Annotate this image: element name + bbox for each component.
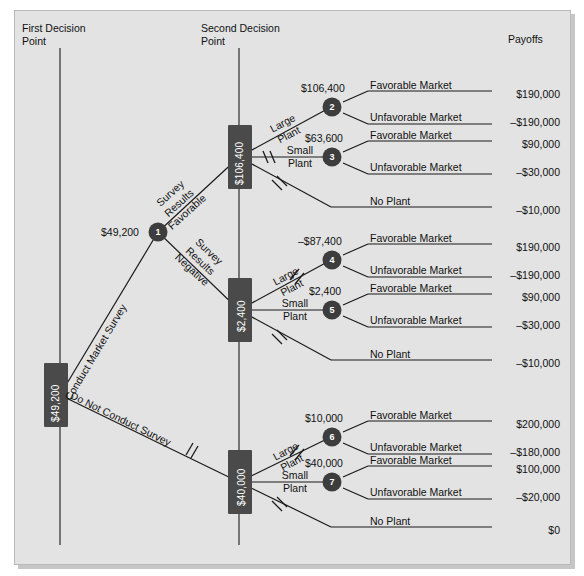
edge-n2-unfavorable — [343, 113, 368, 124]
payoffs-header: Payoffs — [508, 33, 543, 46]
outcome-label-fav-n3-unfavorable: Unfavorable Market — [370, 161, 462, 174]
prune-mark-nosurvey-noplant-b — [277, 497, 287, 507]
emv-node-6: $10,000 — [305, 412, 343, 425]
edge-n5-unfavorable — [343, 316, 368, 327]
outcome-label-fav-n2-unfavorable: Unfavorable Market — [370, 111, 462, 124]
chance-node-5-label: 5 — [323, 301, 341, 319]
prune-mark-do-not-conduct-a — [186, 443, 193, 455]
chance-node-2-label: 2 — [323, 98, 341, 116]
payoff-value-5: –$10,000 — [460, 204, 560, 216]
fav-small-plant-line1: Small — [280, 144, 320, 157]
emv-node-2: $106,400 — [301, 82, 345, 95]
payoff-value-9: –$30,000 — [460, 319, 560, 331]
outcome-label-neg-n5-favorable: Favorable Market — [370, 282, 452, 295]
prune-mark-do-not-conduct-b — [191, 446, 198, 458]
edge-n3-favorable — [343, 141, 368, 152]
emv-node-1: $49,200 — [101, 226, 139, 239]
payoff-value-15: $0 — [460, 524, 560, 536]
decision-box-survey-favorable-value: $106,400 — [234, 142, 245, 185]
payoff-value-3: $90,000 — [460, 138, 560, 150]
first-decision-point-line1: First Decision — [22, 22, 86, 35]
chance-node-6-label: 6 — [323, 428, 341, 446]
nosurvey-small-plant-line1: Small — [275, 469, 315, 482]
outcome-label-fav-n2-favorable: Favorable Market — [370, 79, 452, 92]
branch-label-nosurvey-small-plant: Small Plant — [275, 469, 315, 494]
second-decision-point-line1: Second Decision — [201, 22, 280, 35]
emv-node-3: $63,600 — [305, 132, 343, 145]
outcome-label-nosurvey-n7-unfavorable: Unfavorable Market — [370, 486, 462, 499]
fav-small-plant-line2: Plant — [280, 157, 320, 170]
neg-small-plant-line2: Plant — [275, 310, 315, 323]
prune-mark-fav-noplant-b — [277, 176, 287, 186]
outcome-label-fav-n3-favorable: Favorable Market — [370, 129, 452, 142]
payoff-value-12: –$180,000 — [460, 446, 560, 458]
first-decision-point-line2: Point — [22, 35, 86, 48]
payoff-value-6: $190,000 — [460, 241, 560, 253]
second-decision-point-line2: Point — [201, 35, 280, 48]
edge-n4-unfavorable — [343, 266, 368, 277]
edge-n4-favorable — [343, 244, 368, 255]
edge-n3-unfavorable — [343, 163, 368, 174]
edge-n6-unfavorable — [343, 443, 368, 454]
outcome-label-nosurvey-no-plant: No Plant — [370, 515, 410, 528]
decision-box-no-survey-value: $40,000 — [236, 468, 247, 506]
edge-conduct-survey — [60, 232, 158, 395]
outcome-label-nosurvey-n6-favorable: Favorable Market — [370, 409, 452, 422]
edge-n7-favorable — [343, 466, 368, 477]
edge-n6-favorable — [343, 421, 368, 432]
payoff-value-11: $200,000 — [460, 418, 560, 430]
nosurvey-small-plant-line2: Plant — [275, 482, 315, 495]
chance-node-7-label: 7 — [323, 473, 341, 491]
payoff-value-14: –$20,000 — [460, 491, 560, 503]
outcome-label-nosurvey-n6-unfavorable: Unfavorable Market — [370, 441, 462, 454]
branch-label-neg-small-plant: Small Plant — [275, 297, 315, 322]
emv-node-4: –$87,400 — [298, 235, 342, 248]
payoff-value-4: –$30,000 — [460, 166, 560, 178]
prune-mark-neg-noplant-a — [272, 334, 282, 344]
decision-tree-figure: First Decision Point Second Decision Poi… — [0, 0, 584, 576]
edge-n7-unfavorable — [343, 488, 368, 499]
emv-node-5: $2,400 — [309, 285, 341, 298]
payoff-value-7: –$190,000 — [460, 269, 560, 281]
payoff-value-13: $100,000 — [460, 463, 560, 475]
edge-n2-favorable — [343, 91, 368, 102]
first-decision-point-header: First Decision Point — [22, 22, 86, 48]
edge-n5-favorable — [343, 294, 368, 305]
chance-node-3-label: 3 — [323, 148, 341, 166]
outcome-label-fav-no-plant: No Plant — [370, 195, 410, 208]
payoff-value-1: $190,000 — [460, 88, 560, 100]
second-decision-point-header: Second Decision Point — [201, 22, 280, 48]
neg-small-plant-line1: Small — [275, 297, 315, 310]
payoff-value-8: $90,000 — [460, 291, 560, 303]
outcome-label-nosurvey-n7-favorable: Favorable Market — [370, 454, 452, 467]
outcome-label-neg-n4-favorable: Favorable Market — [370, 232, 452, 245]
decision-box-survey-negative-value: $2,400 — [236, 300, 247, 332]
branch-label-fav-small-plant: Small Plant — [280, 144, 320, 169]
outcome-label-neg-n4-unfavorable: Unfavorable Market — [370, 264, 462, 277]
decision-box-root-value: $49,200 — [50, 384, 61, 422]
prune-mark-fav-noplant-a — [272, 180, 282, 190]
payoff-value-10: –$10,000 — [460, 357, 560, 369]
outcome-label-neg-no-plant: No Plant — [370, 348, 410, 361]
payoff-value-2: –$190,000 — [460, 116, 560, 128]
outcome-label-neg-n5-unfavorable: Unfavorable Market — [370, 314, 462, 327]
chance-node-4-label: 4 — [323, 251, 341, 269]
